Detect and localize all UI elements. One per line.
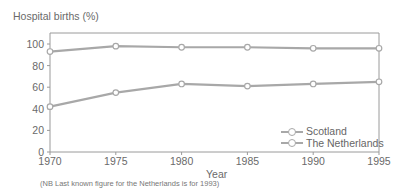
x-tick-label: 1970 [38,155,62,167]
data-point [179,81,185,87]
data-point [113,90,119,96]
data-point [245,83,251,89]
y-tick-label: 80 [32,60,44,72]
data-point [179,44,185,50]
footnote: (NB Last known figure for the Netherland… [40,179,219,188]
x-tick-label: 1995 [367,155,391,167]
circle-marker-icon [281,139,303,147]
data-point [113,43,119,49]
y-tick-label: 60 [32,81,44,93]
y-tick-label: 40 [32,103,44,115]
data-point [376,46,382,52]
x-tick-label: 1990 [302,155,326,167]
data-point [310,46,316,52]
legend-label: Scotland [306,126,347,138]
x-tick-label: 1975 [104,155,128,167]
x-tick-label: 1985 [236,155,260,167]
legend-item-scotland: Scotland [281,126,384,138]
series-line-0 [50,46,379,51]
y-tick-label: 20 [32,124,44,136]
data-point [245,44,251,50]
data-point [376,79,382,85]
x-tick-label: 1980 [170,155,194,167]
legend: Scotland The Netherlands [281,126,384,149]
line-chart: 020406080100197019751980198519901995 [0,0,402,195]
series-line-1 [50,82,379,107]
y-tick-label: 100 [26,38,44,50]
data-point [47,104,53,110]
data-point [47,49,53,55]
data-point [310,81,316,87]
legend-label: The Netherlands [306,138,384,150]
circle-marker-icon [281,128,303,136]
legend-item-netherlands: The Netherlands [281,138,384,150]
